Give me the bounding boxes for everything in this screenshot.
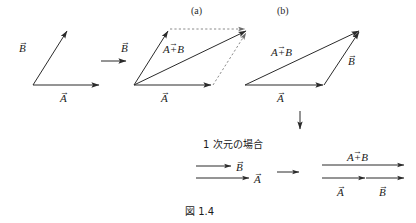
panel-b-label-sum-text: A+B bbox=[271, 46, 292, 58]
panel-a-label-sum: → A+B bbox=[163, 39, 184, 55]
panel-b-label-sum: → A+B bbox=[271, 42, 292, 58]
start-label-b: → B bbox=[19, 38, 28, 54]
figure-caption: 図 1.4 bbox=[185, 203, 214, 218]
oned-input-label-b: → B bbox=[236, 157, 245, 173]
one-dimensional-case-note: 1 次元の場合 bbox=[203, 136, 263, 151]
oned-output-label-a: → A bbox=[337, 182, 346, 198]
panel-start-vectors bbox=[33, 31, 99, 85]
start-vector-b-line bbox=[33, 31, 67, 85]
panel-a-label-b-text: B bbox=[121, 42, 128, 54]
start-label-b-text: B bbox=[19, 42, 26, 54]
oned-output-label-b-text: B bbox=[379, 186, 386, 198]
panel-b-label-a-text: A bbox=[277, 92, 284, 104]
panel-a-label-sum-text: A+B bbox=[163, 43, 184, 55]
oned-output-label-sum-text: A+B bbox=[347, 151, 368, 163]
oned-input-label-a: → A bbox=[254, 169, 263, 185]
start-label-a-text: A bbox=[60, 92, 67, 104]
start-label-a: → A bbox=[60, 88, 69, 104]
figure-1-4: (a) (b) → B → A → B → A → A+B → A+B → B … bbox=[0, 0, 416, 223]
panel-oned-output bbox=[322, 165, 404, 178]
panel-b-label-b: → B bbox=[348, 51, 357, 67]
panel-a-label-a-text: A bbox=[161, 92, 168, 104]
panel-a-label-b: → B bbox=[121, 38, 130, 54]
panel-a-tag: (a) bbox=[191, 5, 202, 16]
panel-b-label-b-text: B bbox=[348, 55, 355, 67]
panel-b-triangle bbox=[245, 31, 359, 85]
panel-b-label-a: → A bbox=[277, 88, 286, 104]
oned-input-label-a-text: A bbox=[254, 173, 261, 185]
oned-output-label-sum: → A+B bbox=[347, 147, 368, 163]
panel-a-parallelogram bbox=[134, 29, 246, 85]
oned-output-label-a-text: A bbox=[337, 186, 344, 198]
panel-a-dashed-right-edge bbox=[213, 33, 246, 85]
vector-diagram-canvas bbox=[0, 0, 416, 223]
panel-b-tag: (b) bbox=[277, 5, 289, 16]
oned-output-label-b: → B bbox=[379, 182, 388, 198]
oned-input-label-b-text: B bbox=[236, 161, 243, 173]
panel-a-label-a: → A bbox=[161, 88, 170, 104]
